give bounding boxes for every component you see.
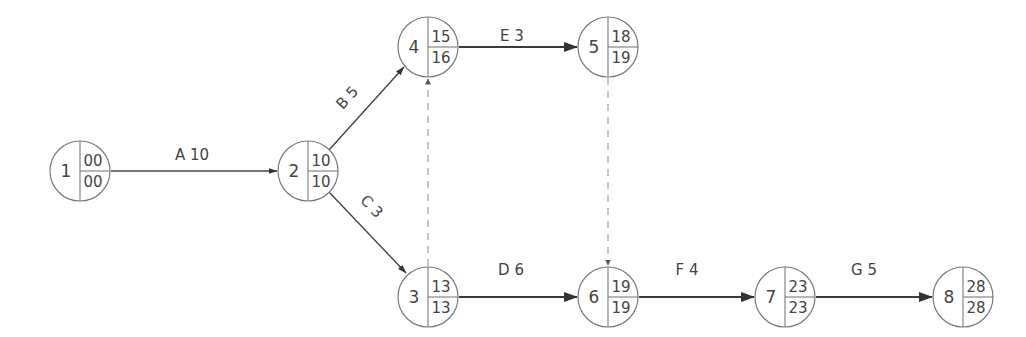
node-early-time: 19	[611, 278, 630, 296]
node-id: 7	[766, 287, 777, 307]
node-early-time: 28	[966, 278, 985, 296]
activity-label-c: C 3	[357, 191, 387, 221]
node-late-time: 13	[431, 299, 450, 317]
network-diagram: A 10 B 5 C 3 D 6 E 3 F 4 G 5 1 00 00 2 1…	[0, 0, 1026, 337]
node-1: 1 00 00	[50, 141, 110, 201]
activity-label-e: E 3	[500, 27, 524, 45]
node-early-time: 13	[431, 278, 450, 296]
node-early-time: 00	[83, 152, 102, 170]
activity-edges	[111, 47, 932, 297]
node-early-time: 23	[788, 278, 807, 296]
node-id: 4	[409, 37, 420, 57]
dummy-edges	[428, 78, 608, 266]
node-late-time: 19	[611, 49, 630, 67]
node-late-time: 23	[788, 299, 807, 317]
node-id: 8	[944, 287, 955, 307]
node-late-time: 10	[311, 173, 330, 191]
activity-label-b: B 5	[332, 82, 362, 112]
activity-label-g: G 5	[851, 261, 877, 279]
node-8: 8 28 28	[933, 267, 993, 327]
activity-labels: A 10 B 5 C 3 D 6 E 3 F 4 G 5	[175, 27, 877, 279]
node-id: 3	[409, 287, 420, 307]
node-id: 2	[289, 161, 300, 181]
node-4: 4 15 16	[398, 17, 458, 77]
node-late-time: 28	[966, 299, 985, 317]
node-6: 6 19 19	[578, 267, 638, 327]
node-late-time: 16	[431, 49, 450, 67]
node-id: 1	[61, 161, 72, 181]
network-diagram-svg: A 10 B 5 C 3 D 6 E 3 F 4 G 5 1 00 00 2 1…	[0, 0, 1026, 337]
activity-label-a: A 10	[175, 146, 209, 164]
node-2: 2 10 10	[278, 141, 338, 201]
node-early-time: 18	[611, 28, 630, 46]
activity-label-d: D 6	[498, 261, 524, 279]
node-late-time: 00	[83, 173, 102, 191]
node-early-time: 10	[311, 152, 330, 170]
node-3: 3 13 13	[398, 267, 458, 327]
node-5: 5 18 19	[578, 17, 638, 77]
node-7: 7 23 23	[755, 267, 815, 327]
node-late-time: 19	[611, 299, 630, 317]
node-id: 5	[589, 37, 600, 57]
activity-label-f: F 4	[676, 261, 699, 279]
node-id: 6	[589, 287, 600, 307]
node-early-time: 15	[431, 28, 450, 46]
